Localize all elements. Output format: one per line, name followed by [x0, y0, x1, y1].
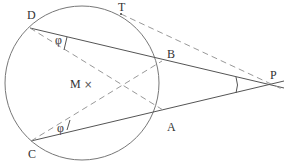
secant-c-p	[31, 81, 284, 141]
label-b: B	[167, 48, 175, 60]
angle-arc-d	[64, 37, 67, 50]
angle-arc-p	[236, 77, 238, 93]
center-marker: ×	[84, 79, 92, 90]
label-a: A	[167, 121, 176, 133]
angle-arc-c	[67, 120, 70, 130]
label-p: P	[270, 69, 277, 81]
label-m: M	[70, 78, 81, 90]
chord-d-a	[30, 28, 163, 110]
angle-phi-d: φ	[55, 34, 62, 46]
circle	[5, 6, 159, 160]
secant-d-p	[30, 28, 284, 88]
label-t: T	[118, 1, 125, 13]
chord-c-b	[31, 61, 162, 141]
angle-phi-c: φ	[57, 122, 64, 134]
tangent-t-p	[121, 14, 284, 90]
label-c: C	[28, 148, 36, 160]
geometry-figure: ×	[0, 0, 285, 161]
label-d: D	[27, 9, 36, 21]
